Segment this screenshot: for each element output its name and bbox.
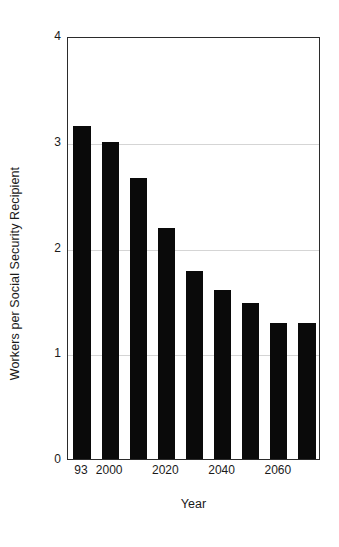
bar (242, 303, 259, 460)
x-axis-tick-labels: 932000202020402060 (0, 463, 339, 483)
y-tick-label: 1 (39, 346, 61, 360)
bar (158, 228, 175, 459)
x-axis-title: Year (67, 497, 320, 511)
x-tick-label: 93 (74, 463, 87, 477)
x-tick-label: 2000 (96, 463, 123, 477)
plot-area (67, 37, 320, 460)
chart-figure: Workers per Social Security Recipient 01… (0, 0, 339, 547)
bar (270, 323, 287, 459)
bar (102, 142, 119, 459)
bar-series (68, 38, 319, 459)
x-tick-label: 2060 (264, 463, 291, 477)
bar (298, 323, 315, 459)
x-tick-label: 2040 (208, 463, 235, 477)
y-tick-label: 4 (39, 29, 61, 43)
bar (186, 271, 203, 459)
bar (130, 178, 147, 459)
bar (73, 126, 90, 459)
y-tick-label: 2 (39, 241, 61, 255)
y-tick-label: 3 (39, 135, 61, 149)
bar (214, 290, 231, 459)
x-tick-label: 2020 (152, 463, 179, 477)
